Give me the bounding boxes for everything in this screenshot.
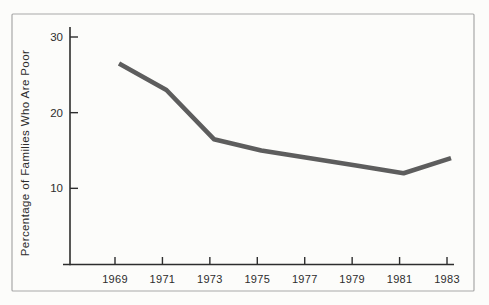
figure-frame	[12, 14, 474, 291]
poverty-rate-line	[119, 64, 451, 174]
y-axis-title: Percentage of Families Who Are Poor	[19, 50, 31, 256]
x-tick-label: 1973	[197, 273, 223, 285]
x-tick-label: 1983	[434, 273, 460, 285]
x-tick-label: 1979	[339, 273, 365, 285]
x-tick-label: 1981	[387, 273, 413, 285]
y-tick-label: 10	[50, 182, 63, 194]
x-tick-label: 1977	[292, 273, 318, 285]
line-chart: 102030 19691971197319751977197919811983 …	[0, 0, 489, 305]
y-tick-label: 30	[50, 31, 63, 43]
x-tick-label: 1971	[150, 273, 176, 285]
y-tick-label: 20	[50, 107, 63, 119]
chart-figure: 102030 19691971197319751977197919811983 …	[0, 0, 489, 305]
y-axis-ticks: 102030	[50, 31, 78, 194]
x-tick-label: 1969	[102, 273, 128, 285]
x-axis-ticks: 19691971197319751977197919811983	[102, 257, 460, 285]
x-tick-label: 1975	[244, 273, 270, 285]
